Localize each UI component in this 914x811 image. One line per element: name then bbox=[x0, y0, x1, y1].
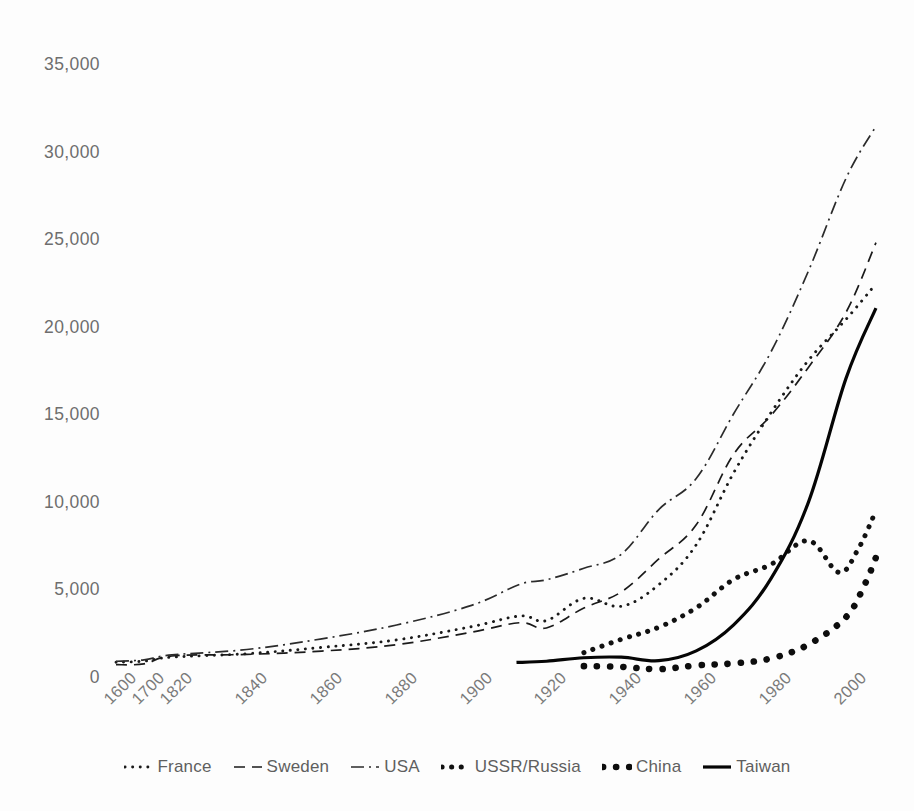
legend-item-taiwan[interactable]: Taiwan bbox=[702, 757, 790, 777]
bold-dots-marker bbox=[602, 760, 632, 774]
legend-item-france[interactable]: France bbox=[124, 757, 212, 777]
legend-label: France bbox=[158, 757, 212, 777]
legend-label: Sweden bbox=[267, 757, 330, 777]
legend-item-china[interactable]: China bbox=[602, 757, 681, 777]
chart-container: 05,00010,00015,00020,00025,00030,00035,0… bbox=[0, 0, 914, 811]
series-line-ussr-russia bbox=[584, 511, 876, 653]
dashdot-line-marker bbox=[350, 760, 380, 774]
plot-area bbox=[0, 0, 914, 811]
series-group bbox=[116, 126, 876, 669]
series-line-china bbox=[584, 557, 876, 669]
series-line-taiwan bbox=[516, 308, 875, 662]
series-line-sweden bbox=[116, 243, 876, 665]
dashed-line-marker bbox=[233, 760, 263, 774]
legend-item-usa[interactable]: USA bbox=[350, 757, 420, 777]
legend-item-sweden[interactable]: Sweden bbox=[233, 757, 330, 777]
series-line-france bbox=[116, 284, 876, 662]
series-line-usa bbox=[116, 126, 876, 661]
legend-label: USSR/Russia bbox=[475, 757, 581, 777]
dotted-line-marker bbox=[124, 760, 154, 774]
legend-item-ussr-russia[interactable]: USSR/Russia bbox=[441, 757, 581, 777]
legend-label: USA bbox=[384, 757, 420, 777]
thick-dotted-line-marker bbox=[441, 760, 471, 774]
chart-legend: FranceSwedenUSAUSSR/RussiaChinaTaiwan bbox=[0, 752, 914, 782]
legend-label: China bbox=[636, 757, 681, 777]
solid-line-marker bbox=[702, 760, 732, 774]
legend-label: Taiwan bbox=[736, 757, 790, 777]
